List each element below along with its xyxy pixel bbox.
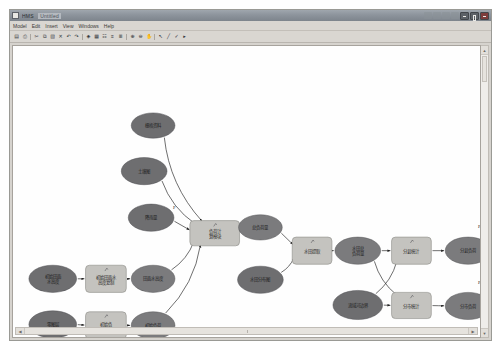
copy-icon[interactable]: ⧉ bbox=[41, 33, 48, 40]
data-node[interactable]: 土壤图 bbox=[121, 158, 167, 185]
window-controls bbox=[424, 12, 489, 20]
maximize-button[interactable] bbox=[470, 12, 479, 20]
app-icon bbox=[12, 12, 19, 19]
undo-icon[interactable]: ↶ bbox=[65, 33, 72, 40]
pan-icon[interactable]: ✋ bbox=[145, 33, 152, 40]
window-title: HMS Untitled bbox=[22, 13, 424, 19]
toolbar-ghost-1 bbox=[424, 12, 432, 19]
close-button[interactable] bbox=[480, 12, 489, 20]
toolbar-ghost-2 bbox=[433, 12, 441, 19]
flow-arrow[interactable] bbox=[164, 138, 202, 222]
parameter-marker: P bbox=[478, 280, 480, 285]
parameter-marker: P bbox=[478, 224, 480, 229]
node-label: 分市统计 bbox=[403, 303, 420, 310]
pointer-icon[interactable]: ↖ bbox=[157, 33, 164, 40]
menu-item-edit[interactable]: Edit bbox=[32, 23, 41, 29]
process-node[interactable]: 分县统计 bbox=[392, 237, 432, 264]
node-label: 水田分布图 bbox=[250, 276, 270, 283]
menu-item-insert[interactable]: Insert bbox=[45, 23, 58, 29]
delete-icon[interactable]: ✕ bbox=[57, 33, 64, 40]
menu-item-model[interactable]: Model bbox=[13, 23, 27, 29]
connector-icon[interactable]: ╱ bbox=[165, 33, 172, 40]
paste-icon[interactable]: ▧ bbox=[49, 33, 56, 40]
data-node[interactable]: 分市负荷 bbox=[445, 292, 480, 319]
align-left-icon[interactable]: ≡ bbox=[109, 33, 116, 40]
process-node[interactable]: 负荷计算模块 bbox=[190, 221, 240, 246]
node-layer: 栅格资料土壤图降雨量负荷计算模块总负荷量水田分布图初始田面水高度初始田面水高度复… bbox=[29, 113, 480, 337]
process-node[interactable]: 水田提取 bbox=[292, 237, 332, 264]
menu-bar: Model Edit Insert View Windows Help bbox=[10, 21, 491, 31]
node-label: 水田总负荷量 bbox=[352, 245, 365, 257]
layers-icon[interactable]: ☷ bbox=[101, 33, 108, 40]
window-title-primary: HMS bbox=[22, 13, 34, 19]
print-icon[interactable]: ⎙ bbox=[21, 33, 28, 40]
data-node[interactable]: 分县负荷 bbox=[445, 237, 480, 264]
menu-item-windows[interactable]: Windows bbox=[79, 23, 99, 29]
toolbar-ghost-3 bbox=[442, 12, 450, 19]
scroll-down-icon[interactable]: ▼ bbox=[481, 328, 488, 337]
horizontal-scrollbar[interactable]: ◀ ▶ bbox=[15, 327, 478, 335]
menu-item-view[interactable]: View bbox=[63, 23, 74, 29]
process-node[interactable]: 分市统计 bbox=[392, 292, 432, 318]
scroll-left-icon[interactable]: ◀ bbox=[16, 328, 24, 334]
flow-arrow[interactable] bbox=[376, 261, 397, 293]
canvas-surface[interactable]: 栅格资料土壤图降雨量负荷计算模块总负荷量水田分布图初始田面水高度初始田面水高度复… bbox=[13, 46, 480, 337]
toolbar-separator-2 bbox=[81, 33, 84, 40]
node-label: 负荷计算模块 bbox=[209, 228, 222, 240]
node-label: 田面水高度 bbox=[143, 275, 164, 282]
toolbar-separator-3 bbox=[125, 33, 128, 40]
zoom-out-icon[interactable]: ⊖ bbox=[137, 33, 144, 40]
node-label: 流域河边界 bbox=[348, 302, 369, 309]
more-icon[interactable]: ▸ bbox=[181, 33, 188, 40]
flow-arrow[interactable] bbox=[281, 233, 293, 244]
data-node[interactable]: 初始田面水高度 bbox=[29, 265, 77, 292]
scroll-up-icon[interactable]: ▲ bbox=[481, 46, 488, 55]
align-right-icon[interactable]: ≣ bbox=[117, 33, 124, 40]
minimize-button[interactable] bbox=[460, 12, 469, 20]
node-label: 栅格资料 bbox=[145, 122, 162, 129]
node-label: 土壤图 bbox=[138, 168, 150, 175]
node-label: 分县统计 bbox=[403, 248, 420, 255]
flow-arrow[interactable] bbox=[171, 242, 193, 270]
toolbar: ▤ ⎙ ✂ ⧉ ▧ ✕ ↶ ↷ ◈ ▦ ☷ ≡ ≣ ⊕ ⊖ ✋ ↖ ╱ ✓ ▸ bbox=[10, 31, 491, 43]
cut-icon[interactable]: ✂ bbox=[33, 33, 40, 40]
node-label: 水田提取 bbox=[304, 248, 321, 255]
grid-icon[interactable]: ▦ bbox=[93, 33, 100, 40]
application-window: HMS Untitled Model Edit Insert View Wind… bbox=[9, 9, 492, 341]
model-canvas[interactable]: 栅格资料土壤图降雨量负荷计算模块总负荷量水田分布图初始田面水高度初始田面水高度复… bbox=[12, 45, 481, 338]
run-icon[interactable]: ◈ bbox=[85, 33, 92, 40]
link-icon[interactable]: ✓ bbox=[173, 33, 180, 40]
scroll-right-icon[interactable]: ▶ bbox=[469, 328, 477, 334]
data-node[interactable]: 总负荷量 bbox=[239, 215, 283, 240]
node-label: 分县负荷 bbox=[460, 247, 477, 254]
data-node[interactable]: 水田总负荷量 bbox=[335, 237, 381, 264]
data-node[interactable]: 降雨量 bbox=[128, 204, 174, 231]
toolbar-separator-1 bbox=[29, 33, 32, 40]
node-label: 降雨量 bbox=[145, 214, 158, 221]
data-node[interactable]: 流域河边界 bbox=[333, 290, 383, 319]
flow-diagram: 栅格资料土壤图降雨量负荷计算模块总负荷量水田分布图初始田面水高度初始田面水高度复… bbox=[13, 46, 480, 337]
data-node[interactable]: 田面水高度 bbox=[131, 265, 175, 292]
data-node[interactable]: 栅格资料 bbox=[131, 113, 175, 138]
node-label: 总负荷量 bbox=[252, 224, 269, 231]
workspace: 栅格资料土壤图降雨量负荷计算模块总负荷量水田分布图初始田面水高度初始田面水高度复… bbox=[10, 43, 491, 340]
save-icon[interactable]: ▤ bbox=[13, 33, 20, 40]
process-node[interactable]: 初始田面水高度复制 bbox=[86, 265, 127, 292]
data-node[interactable]: 水田分布图 bbox=[238, 266, 284, 293]
redo-icon[interactable]: ↷ bbox=[73, 33, 80, 40]
toolbar-ghost-4 bbox=[451, 12, 459, 19]
horizontal-scroll-thumb[interactable] bbox=[24, 328, 469, 334]
vertical-scroll-thumb[interactable] bbox=[482, 56, 487, 82]
vertical-scroll-track[interactable] bbox=[481, 83, 488, 328]
vertical-scrollbar[interactable]: ▲ ▼ bbox=[481, 45, 489, 338]
window-title-secondary: Untitled bbox=[38, 13, 61, 19]
menu-item-help[interactable]: Help bbox=[104, 23, 114, 29]
node-label: 分市负荷 bbox=[460, 303, 477, 310]
node-label: 初始田面水高度复制 bbox=[96, 274, 117, 286]
title-bar[interactable]: HMS Untitled bbox=[10, 10, 491, 21]
toolbar-separator-4 bbox=[153, 33, 156, 40]
flow-arrow[interactable] bbox=[174, 221, 189, 230]
flow-arrow[interactable] bbox=[374, 261, 396, 295]
zoom-in-icon[interactable]: ⊕ bbox=[129, 33, 136, 40]
